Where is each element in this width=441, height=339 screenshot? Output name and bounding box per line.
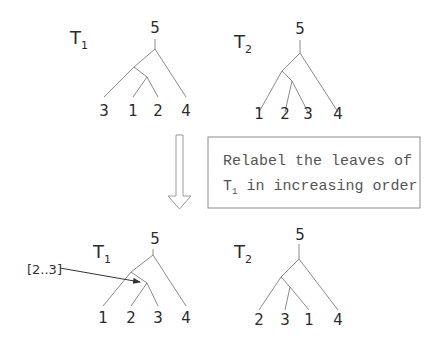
leaf-label: 2 bbox=[280, 105, 290, 123]
transition-arrow bbox=[168, 135, 191, 209]
tree-edge bbox=[281, 277, 290, 287]
tree-edge bbox=[134, 49, 155, 67]
tree-edge bbox=[299, 259, 338, 310]
leaf-label: 1 bbox=[254, 105, 264, 123]
leaf-label: 3 bbox=[153, 309, 163, 327]
tree-name: T1 bbox=[92, 241, 111, 266]
note-line-2: T1 in increasing order bbox=[223, 178, 417, 197]
tree-edge bbox=[282, 53, 300, 71]
tree-name-subscript: 1 bbox=[104, 253, 111, 266]
note-line-1: Relabel the leaves of bbox=[223, 153, 412, 170]
tree-edge bbox=[147, 283, 158, 306]
tree-edge bbox=[285, 287, 290, 310]
leaf-label: 4 bbox=[181, 309, 191, 327]
tree-bottom-t2: T252314 bbox=[233, 226, 343, 329]
leaf-label: 1 bbox=[128, 102, 138, 120]
leaf-label: 1 bbox=[304, 311, 314, 329]
tree-edge bbox=[104, 67, 134, 97]
tree-edge bbox=[155, 49, 186, 97]
tree-name: T2 bbox=[233, 241, 252, 266]
tree-edge bbox=[133, 77, 147, 97]
leaf-label: 4 bbox=[333, 311, 343, 329]
callout: [2..3] bbox=[27, 262, 140, 282]
root-label: 5 bbox=[150, 19, 160, 37]
tree-edge bbox=[281, 259, 299, 277]
root-label: 5 bbox=[295, 226, 305, 244]
tree-name: T1 bbox=[69, 27, 88, 52]
tree-name-subscript: 1 bbox=[81, 39, 88, 52]
note-box-frame bbox=[208, 137, 420, 208]
tree-edge bbox=[300, 53, 338, 112]
leaf-label: 2 bbox=[126, 309, 136, 327]
tree-name: T2 bbox=[233, 31, 252, 56]
leaf-label: 3 bbox=[280, 311, 290, 329]
tree-edge bbox=[290, 287, 309, 310]
down-arrow-icon bbox=[168, 135, 191, 209]
root-label: 5 bbox=[150, 230, 160, 248]
leaf-label: 3 bbox=[303, 105, 313, 123]
tree-bottom-t1: T151234 bbox=[92, 230, 191, 327]
tree-edge bbox=[153, 255, 186, 306]
root-label: 5 bbox=[295, 20, 305, 38]
leaf-label: 2 bbox=[254, 311, 264, 329]
leaf-label: 4 bbox=[333, 105, 343, 123]
leaf-label: 4 bbox=[181, 102, 191, 120]
note-line-2-rest: in increasing order bbox=[237, 178, 417, 195]
tree-edge bbox=[131, 283, 147, 306]
note-box: Relabel the leaves of T1 in increasing o… bbox=[208, 137, 420, 208]
tree-edge bbox=[147, 77, 158, 97]
tree-name-subscript: 2 bbox=[245, 253, 252, 266]
leaf-label: 1 bbox=[98, 309, 108, 327]
note-tree-name: T bbox=[223, 178, 232, 195]
tree-name-subscript: 2 bbox=[245, 43, 252, 56]
callout-label: [2..3] bbox=[27, 262, 62, 277]
tree-edge bbox=[134, 67, 147, 77]
tree-edge bbox=[131, 255, 153, 272]
leaf-label: 2 bbox=[153, 102, 163, 120]
tree-edge bbox=[103, 272, 131, 306]
tree-edge bbox=[259, 277, 281, 310]
diagram-canvas: T153124T251234T151234T252314 Relabel the… bbox=[0, 0, 441, 339]
tree-top-t2: T251234 bbox=[233, 20, 343, 123]
tree-edge bbox=[282, 71, 292, 81]
tree-top-t1: T153124 bbox=[69, 19, 191, 120]
leaf-label: 3 bbox=[99, 102, 109, 120]
